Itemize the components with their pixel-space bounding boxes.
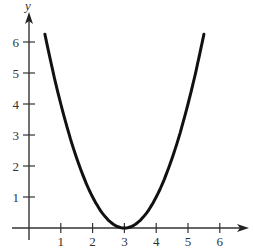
y-axis-label: y — [23, 0, 31, 13]
x-tick-label: 5 — [185, 234, 192, 248]
x-tick-label: 6 — [217, 234, 224, 248]
y-tick-label: 6 — [13, 35, 20, 50]
x-tick-label: 4 — [153, 234, 160, 248]
y-tick-label: 3 — [13, 128, 20, 143]
x-axis-ticks: 123456 — [58, 223, 224, 248]
y-tick-label: 4 — [13, 97, 20, 112]
y-tick-label: 1 — [13, 190, 20, 205]
y-tick-label: 5 — [13, 66, 20, 81]
x-tick-label: 3 — [121, 234, 128, 248]
x-tick-label: 1 — [58, 234, 65, 248]
x-tick-label: 2 — [89, 234, 96, 248]
y-tick-label: 2 — [13, 159, 20, 174]
parabola-curve — [45, 34, 204, 228]
y-axis-ticks: 123456 — [13, 35, 36, 205]
parabola-chart: 123456 123456 y — [0, 0, 253, 248]
